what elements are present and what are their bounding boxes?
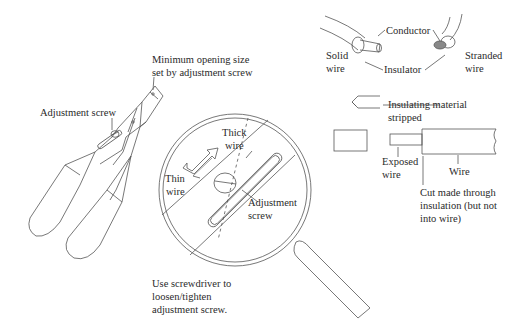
pointer-insulator-stranded [425,55,445,70]
label-insulating-line1: Insulating material [388,98,467,111]
label-exposed-wire-line1: Exposed [382,155,418,168]
label-cut-line3: into wire) [420,212,461,225]
pointer-conductor-solid [378,30,385,36]
label-insulator: Insulator [384,63,421,76]
label-thick-wire-line1: Thick [222,126,247,139]
label-cut-line2: insulation (but not [420,199,497,212]
label-cut-line1: Cut made through [420,186,496,199]
solid-wire-illustration [320,16,382,53]
label-stranded-wire-line2: wire [465,62,484,75]
label-insulating-line2: stripped [388,111,422,124]
label-solid-wire-line1: Solid [326,49,348,62]
label-min-opening-line2: set by adjustment screw [152,66,253,79]
label-thin-wire-line1: Thin [165,172,185,185]
label-magnifier-screw-line1: Adjustment [248,196,297,209]
caption-line1: Use screwdriver to [152,277,231,290]
pointer-thin-wire [193,176,200,178]
label-magnifier-screw-line2: screw [248,209,273,222]
label-exposed-wire-line2: wire [382,168,401,181]
pointer-conductor-stranded [433,30,440,41]
caption-line3: adjustment screw. [152,303,227,316]
label-thin-wire-line2: wire [166,185,185,198]
label-conductor: Conductor [386,24,430,37]
label-adjustment-screw: Adjustment screw [40,106,116,119]
label-solid-wire-line2: wire [326,62,345,75]
pointer-insulator-solid [365,62,383,70]
pointer-thick-wire [246,151,252,158]
label-stranded-wire-line1: Stranded [465,49,502,62]
wire-stripping-diagram: Minimum opening size set by adjustment s… [0,0,527,330]
label-thick-wire-line2: wire [225,139,244,152]
stranded-wire-illustration [434,14,462,49]
label-min-opening-line1: Minimum opening size [152,53,249,66]
diagram-drawing [0,0,527,330]
label-wire: Wire [449,165,470,178]
caption-line2: loosen/tighten [152,290,212,303]
